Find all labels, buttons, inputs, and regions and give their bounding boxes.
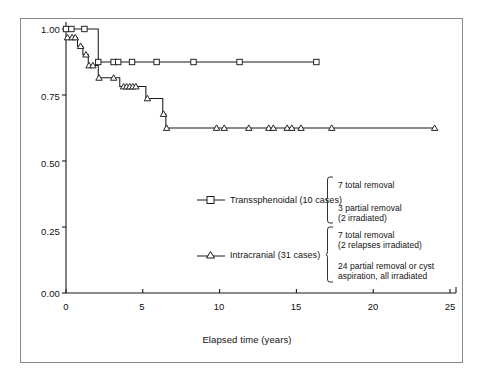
annotation-intracranial-line-1: 7 total removal [338,230,395,241]
censor-marker-0-2 [82,26,87,31]
annotation-transsphenoidal-line-1: 7 total removal [338,180,395,191]
annotation-intracranial-line-3: 24 partial removal or cyst [338,261,434,272]
ytick-label-0_25: 0.25 [26,226,60,237]
censor-marker-0-6 [129,59,134,64]
x-axis-title: Elapsed time (years) [147,334,347,345]
xtick-label-0: 0 [56,301,76,312]
km-survival-plot [0,0,480,376]
annotation-intracranial-line-4: aspiration, all irradiated [338,271,427,282]
censor-marker-0-1 [69,26,74,31]
censor-marker-0-8 [191,59,196,64]
ytick-label-0_50: 0.50 [26,158,60,169]
legend-marker-intracranial [196,249,226,261]
censor-marker-0-3 [96,59,101,64]
ytick-label-0_75: 0.75 [26,91,60,102]
xtick-label-15: 15 [286,301,306,312]
ytick-label-0_00: 0.00 [26,288,60,299]
brace-intracranial-icon [325,226,334,283]
xtick-label-25: 25 [440,301,460,312]
figure-container: 1.00 0.75 0.50 0.25 0.00 0 5 10 15 20 25… [0,0,480,376]
xtick-label-10: 10 [209,301,229,312]
annotation-intracranial-line-2: (2 relapses irradiated) [338,240,422,251]
annotation-transsphenoidal-line-2: 3 partial removal [338,203,402,214]
legend-label-intracranial: Intracranial (31 cases) [230,250,320,260]
legend-marker-transsphenoidal [196,194,226,206]
censor-marker-0-0 [63,26,68,31]
series-line-1 [66,37,435,128]
censor-marker-0-9 [237,59,242,64]
censor-marker-0-7 [154,59,159,64]
censor-marker-0-10 [314,59,319,64]
ytick-label-1_00: 1.00 [26,24,60,35]
brace-transsphenoidal-icon [325,176,334,224]
xtick-label-20: 20 [363,301,383,312]
xtick-label-5: 5 [132,301,152,312]
series-line-0 [66,29,316,62]
censor-marker-0-5 [116,59,121,64]
annotation-transsphenoidal-line-3: (2 irradiated) [338,213,387,224]
